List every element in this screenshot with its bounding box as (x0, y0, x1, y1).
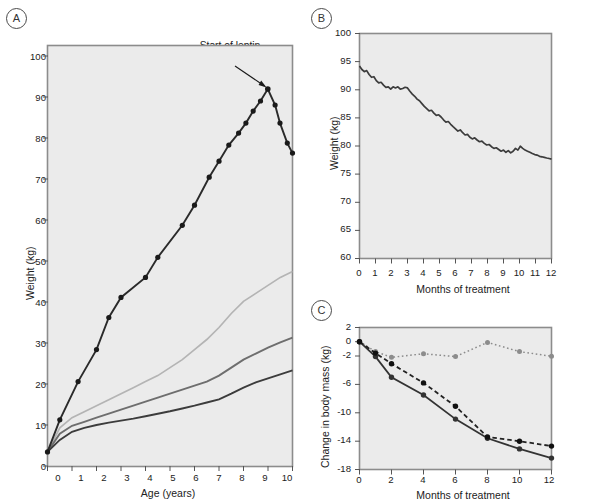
panel-c-plot-area (360, 328, 552, 470)
panel-c: C Change in body mass (kg) Months of tre… (303, 296, 603, 504)
panel-a-plot (0, 0, 303, 504)
panel-b-plot-area (360, 34, 552, 259)
panel-b-plot (303, 0, 603, 296)
panel-c-plot (303, 296, 603, 504)
panel-b: B Weight (kg) Months of treatment 100 95… (303, 0, 603, 296)
panel-a: A Weight (kg) Age (years) 100 90 80 70 6… (0, 0, 303, 504)
